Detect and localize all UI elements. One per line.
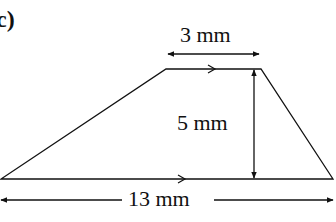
trapezium-shape bbox=[1, 69, 333, 179]
part-label: c) bbox=[0, 6, 15, 33]
diagram: c) 3 mm 5 mm 13 mm bbox=[0, 0, 336, 222]
top-dimension-label: 3 mm bbox=[180, 22, 231, 48]
height-dimension-label: 5 mm bbox=[177, 110, 228, 136]
bottom-dimension-label: 13 mm bbox=[128, 186, 190, 212]
